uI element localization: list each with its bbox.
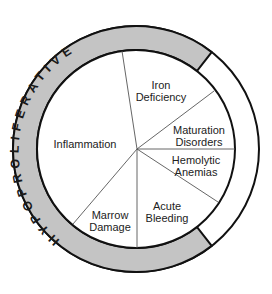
anemia-classification-diagram: HYPOPROLIFERATIVE Inflammation Iron Defi… bbox=[0, 0, 272, 294]
label-maturation-disorders-2: Disorders bbox=[175, 136, 223, 148]
label-hemolytic-anemias-2: Anemias bbox=[175, 166, 218, 178]
label-hemolytic-anemias-1: Hemolytic bbox=[172, 154, 221, 166]
label-iron-deficiency-2: Deficiency bbox=[136, 91, 187, 103]
label-marrow-damage-2: Damage bbox=[89, 221, 131, 233]
label-maturation-disorders-1: Maturation bbox=[173, 124, 225, 136]
label-marrow-damage-1: Marrow bbox=[92, 209, 129, 221]
label-acute-bleeding-1: Acute bbox=[153, 200, 181, 212]
label-inflammation: Inflammation bbox=[54, 138, 117, 150]
label-acute-bleeding-2: Bleeding bbox=[146, 212, 189, 224]
label-iron-deficiency-1: Iron bbox=[152, 79, 171, 91]
